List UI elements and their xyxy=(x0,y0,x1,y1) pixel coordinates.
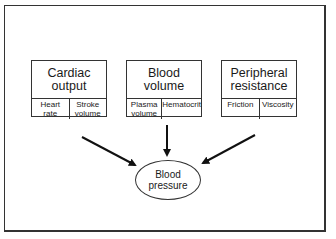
factor-title: Peripheralresistance xyxy=(222,61,296,99)
factor-box-cardiac-output: Cardiacoutput Heartrate Strokevolume xyxy=(31,60,107,117)
arrow-resistance-to-bp xyxy=(203,135,255,163)
component-viscosity: Viscosity xyxy=(259,99,297,119)
component-plasma-volume: Plasmavolume xyxy=(127,99,161,119)
factor-box-blood-volume: Bloodvolume Plasmavolume Hematocrit xyxy=(126,60,202,117)
factor-box-peripheral-resistance: Peripheralresistance Friction Viscosity xyxy=(221,60,297,117)
component-heart-rate: Heartrate xyxy=(32,99,69,119)
outcome-blood-pressure: Bloodpressure xyxy=(135,160,201,200)
component-stroke-volume: Strokevolume xyxy=(69,99,107,119)
factor-title: Bloodvolume xyxy=(127,61,201,99)
factor-title: Cardiacoutput xyxy=(32,61,106,99)
arrows-layer xyxy=(0,0,336,239)
arrow-cardiac-to-bp xyxy=(82,137,135,165)
component-hematocrit: Hematocrit xyxy=(161,99,201,119)
component-friction: Friction xyxy=(222,99,259,119)
